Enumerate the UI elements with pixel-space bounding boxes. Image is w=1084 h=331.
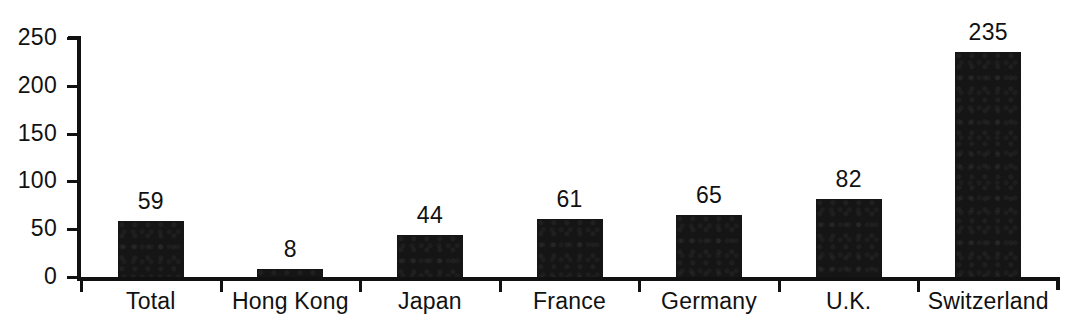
- bar: [816, 199, 882, 277]
- y-axis-tick: [67, 85, 79, 88]
- bar: [397, 235, 463, 277]
- bar-value-label: 59: [101, 190, 201, 213]
- category-label: Switzerland: [898, 288, 1078, 315]
- y-axis-tick-label: 150: [0, 122, 57, 145]
- bar: [257, 269, 323, 277]
- bar-value-label: 235: [938, 21, 1038, 44]
- y-axis-tick: [67, 228, 79, 231]
- y-axis-tick: [67, 180, 79, 183]
- y-axis-tick: [67, 133, 79, 136]
- x-axis-line: [77, 277, 1060, 281]
- bar-value-label: 61: [520, 188, 620, 211]
- y-axis-tick-label: 200: [0, 74, 57, 97]
- y-axis-tick-label: 250: [0, 26, 57, 49]
- y-axis-tick: [67, 276, 79, 279]
- y-axis-tick-label: 50: [0, 217, 57, 240]
- bar: [118, 221, 184, 277]
- y-axis-tick-label: 0: [0, 265, 57, 288]
- bar-value-label: 65: [659, 184, 759, 207]
- bar-chart: 050100150200250 59Total8Hong Kong44Japan…: [0, 0, 1084, 331]
- bar-value-label: 44: [380, 204, 480, 227]
- bar: [676, 215, 742, 277]
- y-axis-line: [77, 36, 81, 281]
- y-axis-tick-label: 100: [0, 169, 57, 192]
- bar-value-label: 8: [240, 238, 340, 261]
- bar-value-label: 82: [799, 168, 899, 191]
- bar: [537, 219, 603, 277]
- bar: [955, 52, 1021, 277]
- y-axis-tick: [67, 37, 79, 40]
